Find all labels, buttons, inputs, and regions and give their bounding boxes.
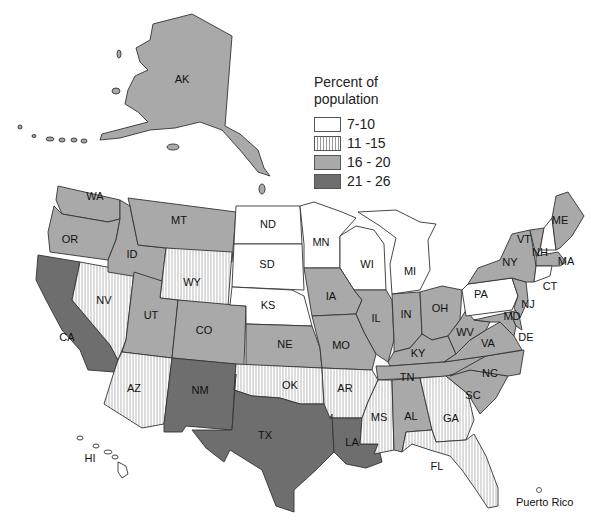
label-AK: AK — [175, 73, 190, 85]
legend-swatch-striped — [314, 136, 341, 151]
label-CA: CA — [59, 331, 75, 343]
label-UT: UT — [144, 309, 159, 321]
label-DE: DE — [518, 331, 533, 343]
label-VT: VT — [517, 233, 531, 245]
label-AR: AR — [337, 382, 352, 394]
label-IA: IA — [326, 290, 337, 302]
label-MO: MO — [332, 339, 350, 351]
label-ND: ND — [260, 218, 276, 230]
label-SC: SC — [465, 389, 480, 401]
label-NC: NC — [482, 367, 498, 379]
label-MA: MA — [558, 255, 575, 267]
legend-item-21-26: 21 - 26 — [314, 172, 391, 190]
legend-swatch-light-gray — [314, 155, 341, 170]
label-KY: KY — [411, 347, 426, 359]
label-CT: CT — [543, 280, 558, 292]
legend-title-line1: Percent of — [314, 74, 391, 91]
label-MS: MS — [371, 411, 388, 423]
label-AL: AL — [404, 410, 417, 422]
label-MI: MI — [404, 265, 416, 277]
label-NY: NY — [502, 256, 518, 268]
label-NV: NV — [96, 294, 112, 306]
label-NE: NE — [277, 338, 292, 350]
label-TX: TX — [258, 429, 273, 441]
legend-item-16-20: 16 - 20 — [314, 153, 391, 171]
label-OR: OR — [62, 233, 79, 245]
label-LA: LA — [345, 436, 359, 448]
label-IN: IN — [401, 308, 412, 320]
label-NM: NM — [191, 384, 208, 396]
label-ME: ME — [552, 214, 569, 226]
label-NJ: NJ — [521, 298, 534, 310]
label-IL: IL — [371, 312, 380, 324]
label-WI: WI — [360, 258, 373, 270]
us-choropleth-map: AK WA OR ID MT CA NV WY UT CO AZ NM TX O… — [0, 0, 591, 532]
label-KS: KS — [261, 299, 276, 311]
label-TN: TN — [400, 371, 415, 383]
legend-item-7-10: 7-10 — [314, 115, 391, 133]
legend-swatch-white — [314, 117, 341, 132]
label-VA: VA — [481, 337, 496, 349]
map-legend: Percent of population 7-10 11 -15 16 - 2… — [314, 74, 391, 190]
legend-swatch-dark-gray — [314, 174, 341, 189]
state-AK — [18, 14, 270, 194]
label-FL: FL — [431, 460, 444, 472]
label-MD: MD — [503, 310, 520, 322]
label-ID: ID — [127, 248, 138, 260]
label-OK: OK — [282, 379, 299, 391]
label-PA: PA — [474, 288, 489, 300]
label-WY: WY — [183, 276, 201, 288]
legend-item-11-15: 11 -15 — [314, 134, 391, 152]
puerto-rico-label: Puerto Rico — [516, 496, 573, 508]
label-SD: SD — [259, 258, 274, 270]
label-AZ: AZ — [127, 382, 141, 394]
label-HI: HI — [85, 452, 96, 464]
label-CO: CO — [196, 324, 213, 336]
label-MN: MN — [312, 236, 329, 248]
label-NH: NH — [532, 246, 548, 258]
label-MT: MT — [171, 214, 187, 226]
label-OH: OH — [432, 302, 449, 314]
territory-puerto-rico — [537, 488, 542, 493]
label-WA: WA — [86, 190, 104, 202]
label-WV: WV — [456, 326, 474, 338]
state-FL — [402, 430, 498, 508]
label-GA: GA — [443, 412, 460, 424]
legend-title-line2: population — [314, 91, 391, 108]
